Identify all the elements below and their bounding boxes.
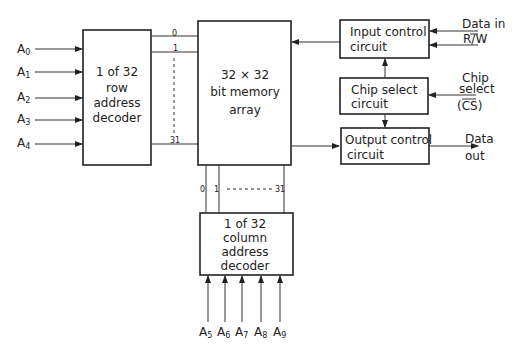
cs-bar-label: (CS) [457,99,482,113]
input-a6: A6 [217,325,230,340]
row-select-lines: 0 1 31 [151,29,198,145]
input-a5: A5 [199,325,212,340]
row-line-1-label: 1 [173,44,178,53]
output-control-circuit: Output control circuit [341,128,432,164]
chip-select-circuit: Chip select circuit [340,78,428,114]
data-in-label: Data in [462,17,505,31]
svg-text:row: row [106,81,128,95]
svg-text:circuit: circuit [351,97,388,111]
svg-text:decoder: decoder [221,259,270,273]
input-a4: A4 [17,136,30,151]
input-a8: A8 [254,325,267,340]
input-a2: A2 [17,90,30,105]
data-out-label-2: out [465,149,485,163]
row-line-31-label: 31 [170,136,180,145]
column-select-lines: 0 1 31 [200,165,285,213]
input-a0: A0 [17,42,30,57]
memory-array: 32 × 32 bit memory array [198,21,291,165]
svg-text:Input control: Input control [350,25,426,39]
svg-text:address: address [93,96,140,110]
svg-text:1 of 32: 1 of 32 [224,217,266,231]
input-a9: A9 [273,325,286,340]
col-line-31-label: 31 [275,185,285,194]
input-a1: A1 [17,65,30,80]
svg-text:bit memory: bit memory [210,85,280,99]
svg-text:circuit: circuit [350,40,387,54]
col-line-0-label: 0 [200,185,205,194]
svg-text:Output control: Output control [345,133,432,147]
input-a7: A7 [235,325,248,340]
input-a3: A3 [17,112,30,127]
input-control-circuit: Input control circuit [340,20,429,58]
column-address-decoder: 1 of 32 column address decoder [200,213,293,275]
svg-text:decoder: decoder [93,111,142,125]
svg-text:circuit: circuit [347,148,384,162]
svg-text:Chip select: Chip select [351,83,418,97]
memory-block-diagram: A0 A1 A2 A3 A4 1 of 32 row address decod… [0,0,516,352]
external-signals: Data in R/W Chip select (CS) Data out [429,17,505,163]
row-address-inputs: A0 A1 A2 A3 A4 [17,42,82,151]
col-line-1-label: 1 [214,185,219,194]
data-out-label-1: Data [465,132,494,146]
svg-text:address: address [221,245,268,259]
svg-text:32 × 32: 32 × 32 [221,68,269,82]
svg-text:array: array [229,103,260,117]
svg-text:column: column [223,231,267,245]
chip-select-label-2: select [459,82,495,96]
row-address-decoder: 1 of 32 row address decoder [83,30,151,165]
row-line-0-label: 0 [172,29,177,38]
column-address-inputs: A5 A6 A7 A8 A9 [199,276,286,340]
svg-text:1 of 32: 1 of 32 [96,65,138,79]
